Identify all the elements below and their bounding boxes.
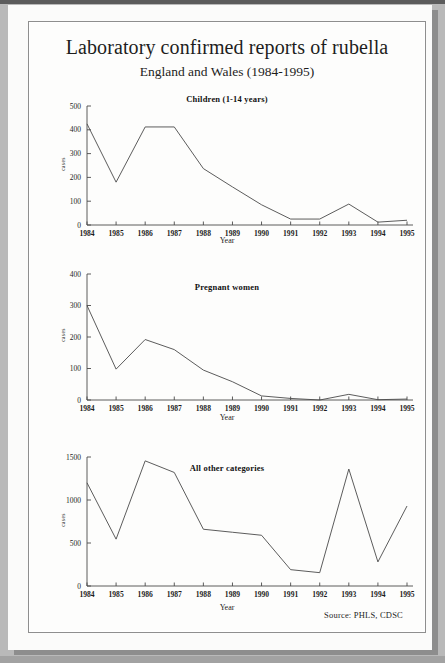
x-tick-label: 1984: [79, 404, 94, 413]
page-sheet: Laboratory confirmed reports of rubella …: [8, 5, 432, 650]
data-series-line: [87, 461, 407, 573]
y-tick-label: 400: [70, 270, 82, 279]
y-tick-label: 200: [70, 333, 82, 342]
x-axis-label: Year: [29, 236, 425, 245]
y-tick-label: 500: [70, 539, 82, 548]
x-tick-label: 1988: [196, 590, 211, 599]
x-tick-label: 1991: [283, 404, 298, 413]
scan-bottom-edge: [0, 656, 445, 663]
x-tick-label: 1992: [312, 590, 327, 599]
chart-pregnant-women: Pregnant women01002003004001984198519861…: [29, 256, 425, 441]
x-tick-label: 1990: [254, 404, 269, 413]
y-axis-label: cases: [60, 144, 66, 184]
plot-area: 0100200300400500198419851986198719881989…: [29, 84, 425, 256]
y-tick-label: 400: [70, 125, 82, 134]
chart-all-other-categories: All other categories05001000150019841985…: [29, 441, 425, 633]
data-series-line: [87, 124, 407, 222]
x-tick-label: 1987: [167, 404, 182, 413]
y-tick-label: 300: [70, 301, 82, 310]
scanned-page-background: Laboratory confirmed reports of rubella …: [0, 0, 445, 663]
y-tick-label: 1500: [66, 453, 81, 462]
data-series-line: [87, 306, 407, 401]
x-tick-label: 1989: [225, 404, 240, 413]
y-axis-label: cases: [60, 315, 66, 355]
x-tick-label: 1995: [399, 404, 414, 413]
x-tick-label: 1987: [167, 590, 182, 599]
x-tick-label: 1986: [138, 590, 153, 599]
source-attribution: Source: PHLS, CDSC: [324, 610, 403, 620]
x-tick-label: 1985: [108, 404, 123, 413]
x-tick-label: 1990: [254, 590, 269, 599]
x-axis-label: Year: [29, 413, 425, 422]
x-tick-label: 1985: [108, 590, 123, 599]
y-tick-label: 500: [70, 102, 82, 111]
x-tick-label: 1989: [225, 590, 240, 599]
x-tick-label: 1988: [196, 404, 211, 413]
x-tick-label: 1995: [399, 590, 414, 599]
x-tick-label: 1994: [370, 590, 385, 599]
y-tick-label: 100: [70, 364, 82, 373]
x-tick-label: 1992: [312, 404, 327, 413]
y-tick-label: 300: [70, 149, 82, 158]
x-tick-label: 1993: [341, 590, 356, 599]
y-tick-label: 1000: [66, 496, 81, 505]
y-tick-label: 200: [70, 173, 82, 182]
page-content-frame: Laboratory confirmed reports of rubella …: [28, 21, 426, 633]
y-axis-label: cases: [60, 500, 66, 540]
x-tick-label: 1991: [283, 590, 298, 599]
chart-children: Children (1-14 years)0100200300400500198…: [29, 84, 425, 256]
x-tick-label: 1986: [138, 404, 153, 413]
x-tick-label: 1984: [79, 590, 94, 599]
x-tick-label: 1994: [370, 404, 385, 413]
page-subtitle: England and Wales (1984-1995): [29, 64, 425, 80]
scan-top-edge: [0, 0, 445, 4]
y-tick-label: 100: [70, 197, 82, 206]
x-tick-label: 1993: [341, 404, 356, 413]
page-title: Laboratory confirmed reports of rubella: [29, 36, 425, 59]
